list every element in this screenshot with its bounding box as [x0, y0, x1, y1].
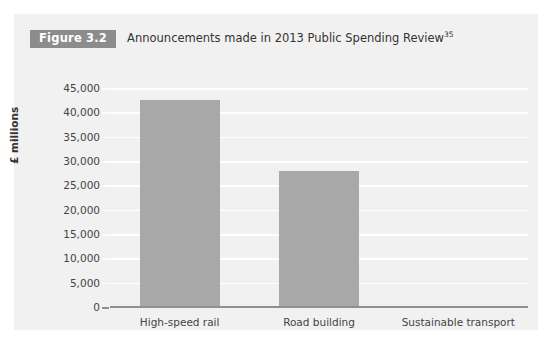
x-axis-tick-label: Road building: [283, 316, 355, 328]
y-axis-tick-label: 25,000: [63, 179, 100, 191]
y-axis-title: £ millions: [8, 107, 20, 164]
y-axis-tick: [102, 161, 109, 163]
figure-caption-row: Figure 3.2 Announcements made in 2013 Pu…: [30, 29, 454, 49]
plot-area: [110, 88, 528, 307]
y-axis-tick: [102, 258, 109, 260]
y-axis-tick: [102, 185, 109, 187]
figure-number-badge: Figure 3.2: [30, 30, 116, 49]
y-axis-tick: [102, 283, 109, 285]
bar-high-speed-rail: [140, 100, 220, 307]
y-axis-tick-label: 0: [93, 301, 100, 313]
figure-caption: Announcements made in 2013 Public Spendi…: [127, 33, 454, 45]
gridline: [110, 88, 528, 90]
x-axis-line: [110, 306, 528, 308]
y-axis-tick: [102, 137, 109, 139]
x-axis-tick-label: High-speed rail: [140, 316, 220, 328]
y-axis-tick-labels: 05,00010,00015,00020,00025,00030,00035,0…: [44, 88, 100, 307]
bar-road-building: [279, 171, 359, 307]
y-axis-tick-label: 30,000: [63, 155, 100, 167]
y-axis-tick-label: 20,000: [63, 204, 100, 216]
figure-footnote-marker: 35: [444, 30, 454, 39]
y-axis-tick: [102, 88, 109, 90]
y-axis-tick: [102, 210, 109, 212]
y-axis-tick: [102, 234, 109, 236]
x-axis-tick-label: Sustainable transport: [402, 316, 515, 328]
y-axis-tick-label: 15,000: [63, 228, 100, 240]
y-axis-tick-label: 5,000: [70, 277, 100, 289]
y-axis-tick: [102, 307, 109, 309]
y-axis-tick-label: 40,000: [63, 106, 100, 118]
y-axis-tick-label: 10,000: [63, 252, 100, 264]
y-axis-tick-label: 45,000: [63, 82, 100, 94]
figure-caption-text: Announcements made in 2013 Public Spendi…: [127, 31, 444, 45]
y-axis-tick-label: 35,000: [63, 131, 100, 143]
figure-panel: Figure 3.2 Announcements made in 2013 Pu…: [14, 14, 538, 330]
y-axis-tick: [102, 112, 109, 114]
